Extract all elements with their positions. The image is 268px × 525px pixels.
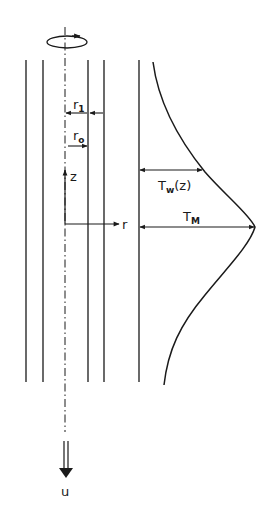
tm-label: T (182, 209, 191, 224)
svg-text:TM: TM (182, 209, 200, 226)
u-label: u (61, 484, 69, 499)
svg-text:Tw(z): Tw(z) (157, 178, 191, 195)
rotation-arrow-icon (47, 36, 87, 48)
svg-text:r1: r1 (73, 97, 85, 114)
tw-label: T (157, 178, 166, 193)
temperature-profile-curve (153, 62, 255, 385)
r-axis-arrow: r (65, 217, 128, 232)
r-label: r (122, 217, 128, 232)
svg-text:ro: ro (73, 128, 85, 145)
r0-dimension: ro (68, 128, 87, 146)
r1-dimension: r1 (66, 97, 103, 114)
double-down-arrow-icon (59, 441, 73, 478)
diagram-canvas: r1 ro z r Tw(z) TM u (0, 0, 268, 525)
max-temperature-dimension: TM (140, 209, 254, 227)
wall-temperature-dimension: Tw(z) (140, 170, 202, 195)
z-axis-arrow: z (65, 169, 77, 224)
z-label: z (70, 169, 77, 184)
